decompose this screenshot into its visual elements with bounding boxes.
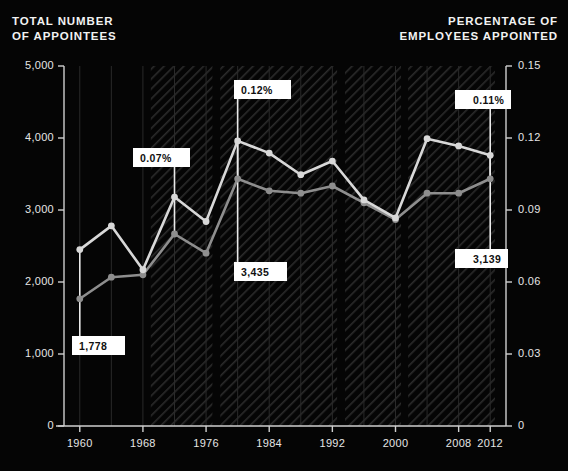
callout-3435: 3,435	[234, 262, 287, 281]
right-ticklabel-0.12: 0.12	[518, 131, 541, 143]
datapoint-1976[interactable]	[203, 250, 210, 257]
left-axis-title-line2: OF APPOINTEES	[12, 29, 117, 44]
datapoint-2008[interactable]	[455, 143, 462, 150]
right-ticklabel-0.15: 0.15	[518, 59, 541, 71]
callout-arrow-icon	[280, 80, 291, 99]
datapoint-1972[interactable]	[171, 231, 178, 238]
datapoint-1988[interactable]	[297, 171, 304, 178]
callout-3139: 3,139	[455, 249, 508, 268]
callout-label: 1,778	[72, 340, 114, 352]
left-ticklabel-1000: 1,000	[25, 347, 54, 359]
left-ticklabel-4000: 4,000	[25, 131, 54, 143]
x-ticklabel-1984: 1984	[245, 437, 293, 449]
right-ticklabel-0: 0	[518, 419, 524, 431]
x-ticklabel-1968: 1968	[119, 437, 167, 449]
datapoint-1980[interactable]	[234, 175, 241, 182]
datapoint-1976[interactable]	[203, 218, 210, 225]
right-axis-title-line1: PERCENTAGE OF	[399, 14, 558, 29]
left-ticklabel-5000: 5,000	[25, 59, 54, 71]
x-ticklabel-2000: 2000	[372, 437, 420, 449]
callout-arrow-icon	[179, 148, 190, 167]
x-ticklabel-2012: 2012	[466, 437, 514, 449]
callout-arrow-icon	[276, 262, 287, 281]
datapoint-2008[interactable]	[455, 190, 462, 197]
callout-arrow-icon	[114, 336, 125, 355]
datapoint-2004[interactable]	[424, 135, 431, 142]
left-ticklabel-3000: 3,000	[25, 203, 54, 215]
datapoint-1980[interactable]	[234, 137, 241, 144]
datapoint-1960[interactable]	[76, 246, 83, 253]
datapoint-2012[interactable]	[487, 175, 494, 182]
datapoint-1984[interactable]	[266, 187, 273, 194]
callout-011: 0.11%	[455, 90, 511, 109]
left-axis-title: TOTAL NUMBER OF APPOINTEES	[12, 14, 117, 44]
chart-root: TOTAL NUMBER OF APPOINTEES PERCENTAGE OF…	[0, 0, 568, 471]
chart-svg	[64, 66, 506, 426]
callout-label: 0.11%	[466, 94, 511, 106]
datapoint-2012[interactable]	[487, 152, 494, 159]
right-axis-title-line2: EMPLOYEES APPOINTED	[399, 29, 558, 44]
datapoint-1996[interactable]	[361, 197, 368, 204]
right-ticklabel-0.09: 0.09	[518, 203, 541, 215]
datapoint-1992[interactable]	[329, 158, 336, 165]
datapoint-1984[interactable]	[266, 150, 273, 157]
callout-label: 3,435	[234, 266, 276, 278]
datapoint-1960[interactable]	[76, 295, 83, 302]
datapoint-1992[interactable]	[329, 183, 336, 190]
shaded-band-2	[345, 66, 401, 426]
shaded-band-3	[408, 66, 495, 426]
datapoint-1972[interactable]	[171, 194, 178, 201]
callout-arrow-icon	[455, 90, 466, 109]
left-axis-title-line1: TOTAL NUMBER	[12, 14, 117, 29]
callout-label: 3,139	[466, 253, 508, 265]
datapoint-2004[interactable]	[424, 190, 431, 197]
datapoint-1964[interactable]	[108, 222, 115, 229]
datapoint-1964[interactable]	[108, 274, 115, 281]
x-ticklabel-1976: 1976	[182, 437, 230, 449]
shaded-bands	[151, 66, 495, 426]
right-ticklabel-0.03: 0.03	[518, 347, 541, 359]
plot-area	[64, 66, 506, 426]
callout-label: 0.12%	[234, 84, 280, 96]
right-axis-title: PERCENTAGE OF EMPLOYEES APPOINTED	[399, 14, 558, 44]
callout-007: 0.07%	[133, 148, 190, 167]
right-ticklabel-0.06: 0.06	[518, 275, 541, 287]
datapoint-1968[interactable]	[140, 266, 147, 273]
left-ticklabel-0: 0	[48, 419, 54, 431]
x-ticklabel-1960: 1960	[56, 437, 104, 449]
datapoint-1988[interactable]	[297, 190, 304, 197]
left-ticklabel-2000: 2,000	[25, 275, 54, 287]
shaded-band-0	[151, 66, 213, 426]
callout-arrow-icon	[455, 249, 466, 268]
callout-label: 0.07%	[133, 152, 179, 164]
callout-012: 0.12%	[234, 80, 291, 99]
datapoint-2000[interactable]	[392, 215, 399, 222]
x-ticklabel-1992: 1992	[308, 437, 356, 449]
callout-1778: 1,778	[72, 336, 125, 355]
